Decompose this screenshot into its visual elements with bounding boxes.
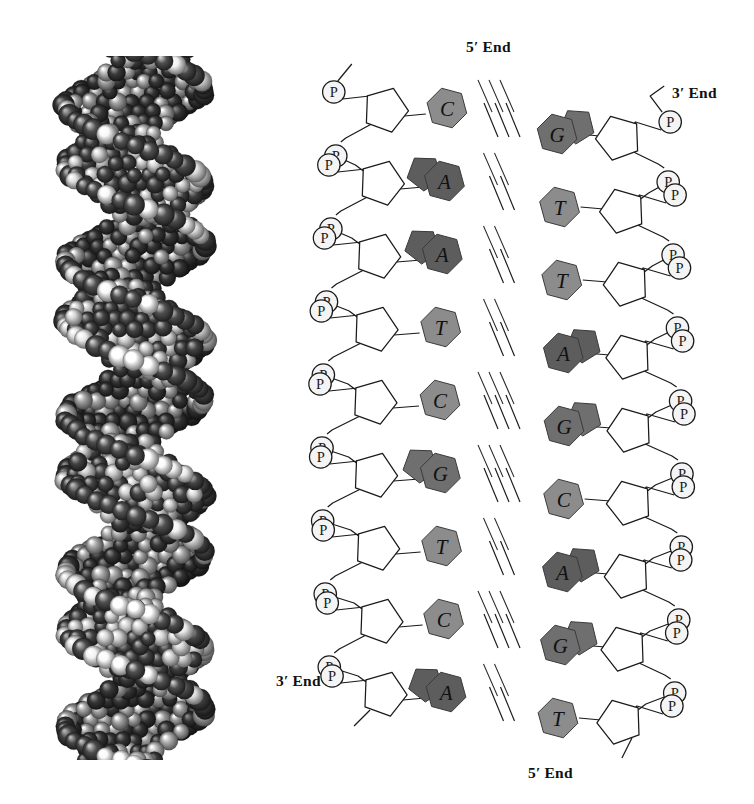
hydrogen-bond [478, 445, 492, 477]
hydrogen-bond [501, 687, 515, 721]
hydrogen-bond [495, 153, 509, 185]
sugar-phosphate-bond [639, 297, 673, 314]
base-letter: C [437, 608, 452, 632]
phosphate-group: P [310, 300, 332, 322]
sugar-phosphate-bond [341, 124, 372, 142]
phosphate-group: P [316, 592, 338, 614]
phosphate-label: P [320, 230, 328, 246]
hydrogen-bond [484, 518, 498, 550]
sugar-ring [356, 453, 398, 497]
dna-structure-svg: PPPPPPPPPPPPPPPPPPPPPPPPPPPPPPPPPPCGATAT… [250, 0, 754, 804]
phosphate-label: P [671, 187, 679, 203]
hydrogen-bond [501, 541, 515, 575]
sugar-ring [597, 700, 639, 744]
phosphate-label: P [325, 157, 333, 173]
glycosidic-bond [581, 207, 604, 209]
phosphate-label: P [679, 333, 687, 349]
sugar-ring [366, 88, 408, 132]
hydrogen-bond [490, 322, 504, 356]
label-5prime-end-bottom-right: 5′ End [528, 764, 573, 782]
sugar-ring [365, 672, 407, 716]
hydrogen-bond [501, 249, 515, 283]
hydrogen-bond [484, 299, 498, 331]
phosphate-group: P [664, 184, 686, 206]
glycosidic-bond [393, 406, 419, 408]
sugar-phosphate-bond [643, 443, 678, 460]
phosphate-group: P [321, 665, 343, 687]
phosphate-group: P [673, 403, 695, 425]
base-A: A [409, 669, 466, 712]
base-letter: G [553, 634, 568, 658]
hydrogen-bond [495, 226, 509, 258]
sugar-ring [362, 161, 404, 205]
hydrogen-bond [500, 445, 514, 477]
sugar-ring [356, 307, 398, 351]
hydrogen-bond [484, 664, 498, 696]
base-T: T [421, 307, 461, 347]
hydrogen-bond-set [478, 591, 520, 648]
hydrogen-bond [500, 591, 514, 623]
hydrogen-bond [489, 80, 503, 112]
base-letter: T [556, 269, 569, 293]
phosphate-group: P [312, 519, 334, 541]
phosphate-group: P [309, 446, 331, 468]
phosphate-label: P [323, 595, 331, 611]
base-letter: C [440, 97, 455, 121]
space-filling-model [44, 50, 226, 766]
phosphate-label: P [666, 114, 674, 130]
diagram-root: PPPPPPPPPPPPPPPPPPPPPPPPPPPPPPPPPPCGATAT… [309, 64, 695, 758]
phosphate-label: P [675, 260, 683, 276]
phosphate-label: P [319, 522, 327, 538]
hydrogen-bond [484, 153, 498, 185]
base-C: C [420, 380, 460, 420]
glycosidic-bond [583, 280, 607, 282]
terminal-bond-3prime-bottom [354, 710, 370, 726]
hydrogen-bond [495, 299, 509, 331]
hydrogen-bond-set [478, 372, 520, 429]
sugar-phosphate-bond [328, 489, 361, 507]
hydrogen-bond-set [484, 664, 515, 721]
label-3prime-end-top-right: 3′ End [672, 84, 717, 102]
hydrogen-bond [495, 103, 509, 137]
sugar-ring [361, 599, 403, 643]
hydrogen-bond [489, 445, 503, 477]
sugar-ring [355, 380, 397, 424]
hydrogen-bond [484, 395, 498, 429]
sugar-phosphate-bond [332, 270, 364, 288]
sugar-phosphate-bond [334, 635, 366, 653]
glycosidic-bond [396, 552, 421, 554]
phosphate-label: P [328, 668, 336, 684]
label-3prime-end-bottom-left: 3′ End [276, 672, 321, 690]
base-letter: G [550, 123, 565, 147]
hydrogen-bond [495, 468, 509, 502]
phosphate-group: P [659, 111, 681, 133]
base-letter: T [552, 707, 565, 731]
hydrogen-bond [478, 372, 492, 404]
phosphate-label: P [680, 406, 688, 422]
label-5prime-end-top-left: 5′ End [466, 38, 511, 56]
sugar-phosphate-bond [642, 370, 677, 387]
sugar-ring [600, 189, 642, 233]
phosphate-group: P [668, 257, 690, 279]
base-letter: G [556, 415, 571, 439]
hydrogen-bond [489, 591, 503, 623]
sugar-ring [358, 526, 400, 570]
sugar-phosphate-bond [336, 197, 368, 215]
phosphate-group: P [313, 227, 335, 249]
phosphate-group: P [666, 622, 688, 644]
hydrogen-bond [484, 468, 498, 502]
base-G: G [541, 622, 597, 665]
hydrogen-bond [501, 322, 515, 356]
sugar-ring [596, 116, 638, 160]
sugar-phosphate-bond [637, 662, 671, 679]
base-T: T [422, 526, 462, 566]
base-T: T [540, 187, 580, 227]
hydrogen-bond [506, 395, 520, 429]
sugar-phosphate-bond [330, 562, 362, 580]
hydrogen-bond [501, 176, 515, 210]
hydrogen-bond [478, 591, 492, 623]
phosphate-label: P [677, 552, 685, 568]
hydrogen-bonds [478, 80, 520, 721]
phosphate-label: P [317, 449, 325, 465]
sugar-phosphate-bond [327, 416, 360, 434]
